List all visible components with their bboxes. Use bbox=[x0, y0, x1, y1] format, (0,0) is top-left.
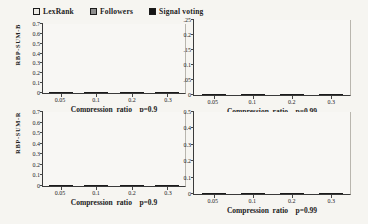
bar bbox=[65, 185, 73, 186]
y-tick-mark bbox=[40, 72, 43, 73]
x-tick-mark bbox=[96, 94, 97, 97]
bar-group bbox=[84, 185, 108, 186]
y-tick-label: 0.1 bbox=[184, 175, 192, 181]
bar bbox=[49, 185, 57, 186]
x-tick-mark bbox=[292, 96, 293, 99]
bar bbox=[100, 185, 108, 186]
figure: LexRank Followers Signal voting RBP-SUM-… bbox=[0, 0, 368, 224]
x-tick-mark bbox=[331, 96, 332, 99]
bar bbox=[65, 92, 73, 93]
bar bbox=[257, 94, 265, 95]
plot-area: 00.10.20.30.40.50.60.7 bbox=[42, 112, 186, 187]
x-tick-mark bbox=[214, 96, 215, 99]
y-tick-label: 0.4 bbox=[33, 141, 41, 147]
bar-group bbox=[319, 94, 343, 95]
y-tick-mark bbox=[40, 62, 43, 63]
y-tick-mark bbox=[191, 193, 194, 194]
x-axis-label: Compression ratio p=0.9 bbox=[42, 198, 186, 207]
y-tick-label: 0 bbox=[37, 90, 40, 96]
x-tick-mark bbox=[167, 94, 168, 97]
y-tick-label: 0.2 bbox=[33, 70, 41, 76]
x-tick-labels: 0.050.10.20.3 bbox=[42, 190, 186, 196]
y-tick-label: 0.2 bbox=[33, 162, 41, 168]
bar-group bbox=[202, 193, 226, 194]
y-tick-label: .15 bbox=[184, 47, 192, 53]
bar-group bbox=[241, 94, 265, 95]
bars bbox=[43, 24, 185, 93]
x-tick-mark bbox=[96, 187, 97, 190]
plot-area: 0.050.1.150.2.25 bbox=[193, 20, 351, 96]
y-tick-label: 0.5 bbox=[184, 109, 192, 115]
y-tick-mark bbox=[40, 164, 43, 165]
x-tick-mark bbox=[253, 96, 254, 99]
bar bbox=[288, 94, 296, 95]
y-tick-label: 0.7 bbox=[33, 21, 41, 27]
y-tick-label: 0.4 bbox=[33, 51, 41, 57]
y-tick-label: 0.1 bbox=[184, 62, 192, 68]
legend-item-lexrank: LexRank bbox=[33, 7, 74, 16]
bar bbox=[218, 94, 226, 95]
bar bbox=[210, 94, 218, 95]
y-tick-label: 0.5 bbox=[33, 130, 41, 136]
y-tick-mark bbox=[191, 177, 194, 178]
chart-rbp-sum-b-p09: RBP-SUM-B 00.10.20.30.40.50.60.7 0.050.1… bbox=[14, 24, 186, 114]
x-tick-label: 0.1 bbox=[78, 190, 114, 196]
x-tick-label: 0.3 bbox=[312, 99, 352, 105]
bar-group bbox=[49, 185, 73, 186]
x-tick-label: 0.3 bbox=[312, 198, 352, 204]
x-tick-labels: 0.050.10.20.3 bbox=[193, 99, 351, 105]
bar bbox=[163, 92, 171, 93]
y-tick-label: 0.2 bbox=[184, 158, 192, 164]
x-tick-mark bbox=[61, 94, 62, 97]
x-tick-mark bbox=[214, 195, 215, 198]
x-tick-mark bbox=[253, 195, 254, 198]
x-tick-labels: 0.050.10.20.3 bbox=[42, 97, 186, 103]
bar bbox=[241, 193, 249, 194]
y-tick-mark bbox=[40, 174, 43, 175]
y-tick-mark bbox=[191, 34, 194, 35]
bar bbox=[335, 193, 343, 194]
legend: LexRank Followers Signal voting bbox=[33, 7, 204, 16]
bars bbox=[194, 112, 350, 194]
bar bbox=[327, 94, 335, 95]
x-tick-labels: 0.050.10.20.3 bbox=[193, 198, 351, 204]
x-tick-label: 0.2 bbox=[114, 190, 150, 196]
bar bbox=[296, 193, 304, 194]
bar bbox=[128, 185, 136, 186]
bar bbox=[57, 92, 65, 93]
chart-rbp-sum-b-p099: 0.050.1.150.2.25 0.050.10.20.3 Compressi… bbox=[176, 20, 351, 116]
bar bbox=[84, 185, 92, 186]
x-tick-mark bbox=[167, 187, 168, 190]
bar-group bbox=[280, 193, 304, 194]
bar bbox=[241, 94, 249, 95]
bar bbox=[218, 193, 226, 194]
y-tick-label: 0.3 bbox=[33, 60, 41, 66]
y-tick-mark bbox=[191, 64, 194, 65]
x-tick-mark bbox=[292, 195, 293, 198]
x-tick-label: 0.1 bbox=[78, 97, 114, 103]
chart-rbp-sum-r-p099: 00.10.20.30.40.5 0.050.10.20.3 Compressi… bbox=[176, 112, 351, 215]
y-tick-label: 0 bbox=[37, 183, 40, 189]
legend-item-followers: Followers bbox=[90, 7, 133, 16]
legend-swatch-signal-voting bbox=[149, 8, 156, 15]
y-tick-mark bbox=[191, 94, 194, 95]
legend-label: Signal voting bbox=[159, 7, 204, 16]
bar bbox=[49, 92, 57, 93]
y-tick-label: 0.1 bbox=[33, 80, 41, 86]
bar bbox=[249, 94, 257, 95]
legend-label: Followers bbox=[100, 7, 133, 16]
bar bbox=[327, 193, 335, 194]
y-tick-mark bbox=[191, 111, 194, 112]
bar bbox=[120, 92, 128, 93]
y-tick-label: 0.2 bbox=[184, 32, 192, 38]
y-tick-label: 0.6 bbox=[33, 120, 41, 126]
y-tick-mark bbox=[40, 53, 43, 54]
bar bbox=[163, 185, 171, 186]
x-tick-label: 0.05 bbox=[193, 99, 233, 105]
y-tick-label: 0.6 bbox=[33, 31, 41, 37]
bar-group bbox=[280, 94, 304, 95]
bar bbox=[257, 193, 265, 194]
plot-area: 00.10.20.30.40.5 bbox=[193, 112, 351, 195]
legend-label: LexRank bbox=[43, 7, 74, 16]
bar bbox=[210, 193, 218, 194]
